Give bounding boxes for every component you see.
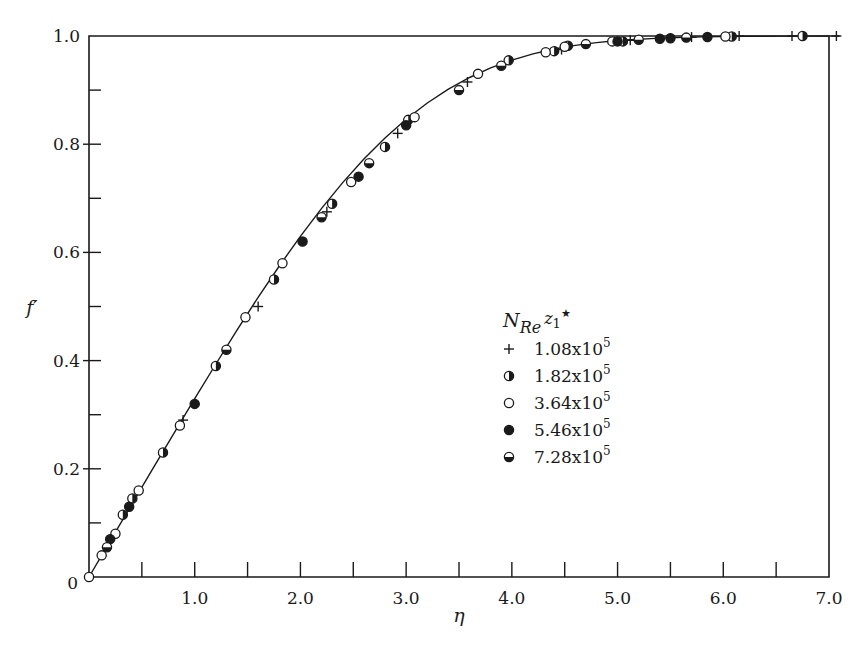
marker-plus-icon	[504, 344, 514, 354]
legend-entry: 5.46x105	[504, 417, 610, 440]
legend-entry: 7.28x105	[504, 444, 610, 467]
marker-open-icon	[504, 398, 513, 407]
legend-title-main: N	[502, 309, 521, 331]
y-tick-label: 0	[67, 573, 78, 593]
x-tick-label: 3.0	[393, 588, 420, 608]
x-axis-title: η	[453, 604, 465, 626]
marker-filled-icon	[703, 32, 712, 41]
marker-half-right-icon	[158, 448, 167, 457]
fitted-curve	[89, 36, 840, 577]
star-icon: ★	[561, 307, 571, 320]
x-tick-label: 5.0	[604, 588, 631, 608]
plot-border	[89, 36, 829, 577]
marker-open-icon	[134, 486, 143, 495]
legend-entries: 1.08x1051.82x1053.64x1055.46x1057.28x105	[504, 336, 611, 467]
x-tick-label: 4.0	[498, 588, 525, 608]
legend-entry-label: 1.82x105	[534, 363, 611, 386]
marker-open-icon	[97, 551, 106, 560]
marker-filled-icon	[655, 34, 664, 43]
chart: 1.02.03.04.05.06.07.000.20.40.60.81.0 η …	[0, 0, 868, 647]
marker-half-right-icon	[380, 142, 389, 151]
y-tick-label: 1.0	[53, 26, 80, 46]
marker-half-right-icon	[504, 371, 513, 380]
legend-entry: 1.82x105	[504, 363, 610, 386]
y-tick-label: 0.2	[53, 459, 80, 479]
x-tick-label: 6.0	[710, 588, 737, 608]
marker-half-bottom-icon	[497, 61, 506, 70]
y-tick-label: 0.6	[53, 242, 80, 262]
legend-entry: 3.64x105	[504, 390, 610, 413]
marker-open-icon	[541, 48, 550, 57]
marker-half-bottom-icon	[682, 33, 691, 42]
marker-half-bottom-icon	[454, 86, 463, 95]
marker-filled-icon	[504, 425, 513, 434]
marker-filled-icon	[190, 399, 199, 408]
marker-open-icon	[175, 421, 184, 430]
marker-half-right-icon	[211, 361, 220, 370]
marker-half-right-icon	[798, 31, 807, 40]
marker-filled-icon	[298, 237, 307, 246]
marker-half-right-icon	[550, 47, 559, 56]
marker-plus-icon	[787, 31, 797, 41]
marker-half-right-icon	[269, 275, 278, 284]
marker-open-icon	[84, 572, 93, 581]
marker-open-icon	[473, 69, 482, 78]
marker-open-icon	[721, 32, 730, 41]
axis-ticks	[83, 90, 776, 577]
marker-filled-icon	[354, 172, 363, 181]
legend-title-sub: Re	[519, 318, 542, 337]
y-tick-label: 0.4	[53, 351, 80, 371]
marker-open-icon	[410, 113, 419, 122]
axis-tick-labels: 1.02.03.04.05.06.07.000.20.40.60.81.0	[53, 26, 843, 608]
marker-filled-icon	[666, 34, 675, 43]
marker-half-bottom-icon	[504, 452, 513, 461]
marker-half-bottom-icon	[222, 345, 231, 354]
x-tick-label: 1.0	[181, 588, 208, 608]
marker-open-icon	[278, 259, 287, 268]
legend-entry-label: 1.08x105	[534, 336, 611, 359]
marker-half-bottom-icon	[102, 543, 111, 552]
marker-half-bottom-icon	[634, 35, 643, 44]
legend-entry-label: 5.46x105	[534, 417, 611, 440]
marker-half-right-icon	[328, 199, 337, 208]
marker-half-bottom-icon	[581, 40, 590, 49]
marker-open-icon	[241, 313, 250, 322]
legend-entry-label: 7.28x105	[534, 444, 611, 467]
x-tick-label: 2.0	[287, 588, 314, 608]
legend-entry: 1.08x105	[504, 336, 611, 359]
marker-plus-icon	[831, 31, 841, 41]
marker-half-right-icon	[118, 510, 127, 519]
marker-filled-icon	[125, 502, 134, 511]
y-tick-label: 0.8	[53, 134, 80, 154]
marker-open-icon	[560, 42, 569, 51]
legend-entry-label: 3.64x105	[534, 390, 611, 413]
y-axis-title: f′	[24, 296, 38, 318]
data-points	[84, 31, 841, 582]
marker-half-bottom-icon	[317, 213, 326, 222]
marker-filled-icon	[402, 121, 411, 130]
marker-plus-icon	[462, 77, 472, 87]
legend-title-z-sub: 1	[553, 316, 561, 331]
plot-frame	[89, 36, 829, 577]
marker-half-bottom-icon	[365, 159, 374, 168]
legend-title: NRez1★	[502, 307, 571, 337]
legend: NRez1★ 1.08x1051.82x1053.64x1055.46x1057…	[502, 307, 611, 467]
x-tick-label: 7.0	[815, 588, 842, 608]
marker-filled-icon	[613, 37, 622, 46]
